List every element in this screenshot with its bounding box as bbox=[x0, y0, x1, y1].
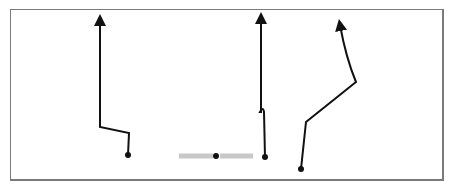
path-3-start-dot bbox=[298, 166, 304, 172]
slider-bar bbox=[179, 153, 253, 159]
path-2-start-dot bbox=[262, 154, 268, 160]
path-3 bbox=[298, 25, 356, 172]
path-2 bbox=[260, 18, 268, 160]
path-1-start-dot bbox=[125, 152, 131, 158]
bar-center-dot bbox=[213, 153, 219, 159]
path-1 bbox=[100, 20, 131, 158]
trajectory-diagram bbox=[0, 0, 454, 191]
